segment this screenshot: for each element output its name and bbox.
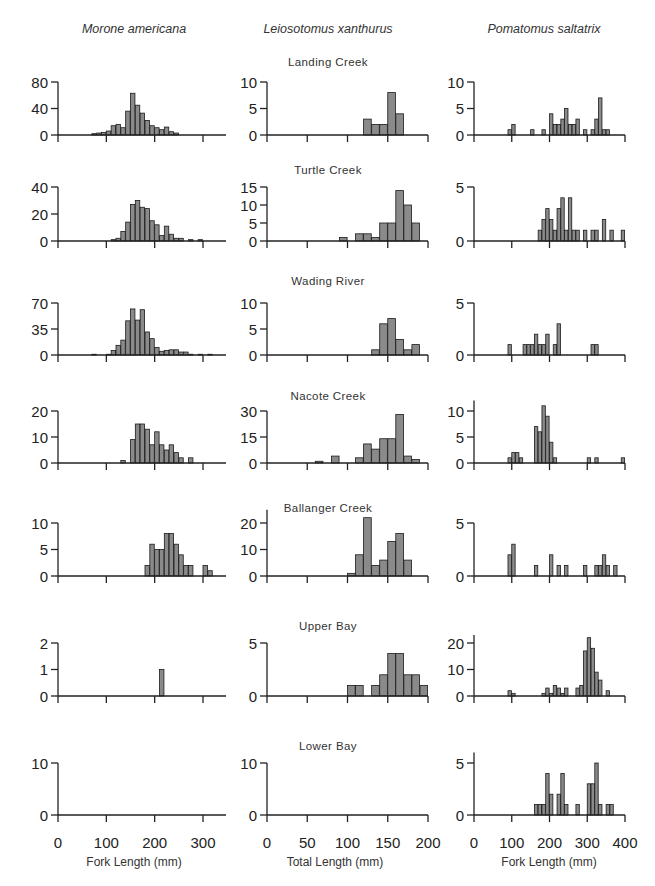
histogram-bar: [599, 98, 602, 135]
histogram-bar: [557, 209, 560, 241]
x-tick-label: 300: [575, 834, 600, 851]
y-tick-label: 20: [31, 403, 48, 420]
histogram-bar: [553, 230, 556, 241]
histogram-bar: [116, 345, 120, 355]
histogram-bar: [356, 555, 364, 576]
histogram-bar: [599, 680, 602, 696]
y-tick-label: 10: [240, 74, 257, 91]
histogram-bars: [348, 654, 428, 696]
histogram-bar: [145, 429, 149, 463]
histogram-bar: [546, 416, 549, 463]
histogram-bar: [179, 555, 183, 576]
y-tick-label: 10: [447, 661, 464, 678]
histogram-bar: [174, 350, 178, 355]
y-tick-label: 40: [31, 100, 48, 117]
y-tick-label: 0: [456, 807, 464, 824]
histogram-bar: [550, 555, 553, 576]
y-tick-label: 0: [249, 347, 257, 364]
histogram-bar: [116, 124, 120, 135]
histogram-bar: [111, 126, 115, 135]
histogram-bar: [388, 654, 396, 696]
histogram-bar: [404, 456, 412, 463]
y-tick-label: 10: [240, 295, 257, 312]
histogram-bar: [576, 119, 579, 135]
histogram-bars: [121, 424, 193, 463]
histogram-bar: [538, 432, 541, 463]
y-tick-label: 5: [456, 179, 464, 196]
histogram-bar: [396, 114, 404, 135]
histogram-bar: [155, 348, 159, 355]
histogram-bar: [565, 688, 568, 696]
site-title-nacote-creek: Nacote Creek: [290, 390, 365, 402]
histogram-bars: [111, 201, 202, 242]
histogram-bar: [557, 565, 560, 576]
histogram-bars: [508, 98, 610, 135]
x-tick-label: 300: [190, 834, 215, 851]
site-title-landing-creek: Landing Creek: [288, 56, 368, 68]
histogram-panel: 012: [40, 635, 226, 705]
histogram-bar: [606, 805, 609, 815]
histogram-bars: [339, 191, 419, 241]
y-tick-label: 30: [240, 403, 257, 420]
site-title-turtle-creek: Turtle Creek: [294, 164, 362, 176]
histogram-bar: [380, 324, 388, 355]
histogram-bars: [534, 763, 613, 815]
y-tick-label: 0: [456, 568, 464, 585]
histogram-bar: [203, 565, 207, 576]
histogram-bar: [595, 763, 598, 815]
y-tick-label: 5: [249, 635, 257, 652]
histogram-bar: [595, 672, 598, 696]
y-tick-label: 1: [40, 661, 48, 678]
histogram-bar: [160, 550, 164, 577]
histogram-bar: [356, 685, 364, 696]
histogram-bar: [561, 119, 564, 135]
y-tick-label: 35: [31, 321, 48, 338]
histogram-panel: 01020: [447, 635, 625, 705]
histogram-bar: [404, 350, 412, 355]
site-title-upper-bay: Upper Bay: [299, 620, 357, 632]
histogram-bar: [404, 205, 412, 241]
y-tick-label: 0: [40, 233, 48, 250]
histogram-panel: 03570: [31, 295, 226, 364]
histogram-panel: 010: [240, 755, 428, 824]
y-tick-label: 5: [456, 755, 464, 772]
histogram-bar: [380, 439, 388, 463]
site-title-lower-bay: Lower Bay: [299, 740, 357, 752]
histogram-bar: [508, 345, 511, 355]
x-tick-label: 0: [263, 834, 271, 851]
histogram-bar: [189, 565, 193, 576]
site-title-ballanger-creek: Ballanger Creek: [284, 502, 372, 514]
histogram-bar: [602, 219, 605, 241]
histogram-bar: [553, 124, 556, 135]
histogram-panel: 01530: [240, 403, 428, 472]
histogram-bar: [160, 445, 164, 463]
histogram-bar: [140, 424, 144, 463]
histogram-bar: [527, 345, 530, 355]
histogram-bar: [150, 221, 154, 241]
histogram-bars: [92, 93, 179, 135]
histogram-bar: [140, 207, 144, 241]
y-tick-label: 5: [456, 515, 464, 532]
histogram-bar: [576, 805, 579, 815]
species-title-pomatomus: Pomatomus saltatrix: [487, 22, 601, 36]
histogram-bar: [131, 205, 135, 241]
histogram-bar: [420, 685, 428, 696]
histogram-bar: [565, 565, 568, 576]
histogram-bar: [599, 805, 602, 815]
histogram-bar: [508, 555, 511, 576]
y-tick-label: 10: [240, 197, 257, 214]
histogram-bar: [364, 234, 372, 241]
y-tick-label: 0: [40, 568, 48, 585]
histogram-bar: [557, 324, 560, 355]
histogram-bar: [550, 442, 553, 463]
site-title-wading-river: Wading River: [291, 275, 364, 287]
histogram-bar: [160, 670, 164, 697]
x-tick-labels-col0: 0100200300: [54, 834, 216, 851]
histogram-bar: [542, 406, 545, 463]
histogram-bar: [331, 456, 339, 463]
species-title-morone: Morone americana: [82, 22, 186, 36]
histogram-bars: [538, 198, 624, 241]
y-tick-label: 0: [456, 688, 464, 705]
histogram-bar: [404, 560, 412, 576]
histogram-bar: [553, 685, 556, 696]
